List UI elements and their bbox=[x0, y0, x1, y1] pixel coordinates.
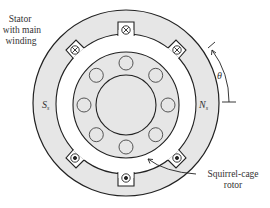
conductor-out-bottom bbox=[122, 174, 130, 182]
angle-ref-line-upper bbox=[208, 42, 215, 48]
conductor-into-upper-right bbox=[173, 46, 181, 54]
stator-label-line2: with main bbox=[3, 25, 42, 35]
stator-label-line1: Stator bbox=[9, 14, 33, 24]
stator-label-line3: winding bbox=[5, 36, 36, 46]
conductor-out-lower-left bbox=[71, 154, 79, 162]
conductor-out-lower-right bbox=[173, 154, 181, 162]
conductor-into-top bbox=[122, 26, 130, 34]
rotor-shaft bbox=[96, 75, 156, 135]
rotor bbox=[73, 52, 179, 158]
angle-theta-label: θ bbox=[217, 70, 222, 81]
rotor-label-line2: rotor bbox=[224, 180, 243, 190]
rotor-label-line1: Squirrel-cage bbox=[207, 169, 258, 179]
conductor-into-upper-left bbox=[71, 46, 79, 54]
motor-diagram: Stator with main winding Ss Ns θ Squirre… bbox=[0, 0, 270, 208]
